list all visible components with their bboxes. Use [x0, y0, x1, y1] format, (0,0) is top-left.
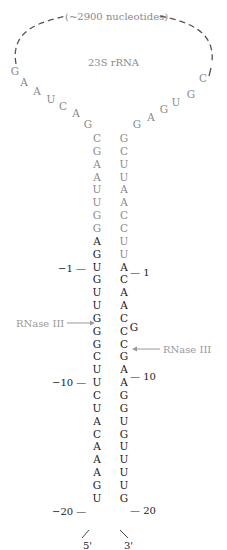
left-stem-nucleotide: C [91, 350, 103, 362]
loop-left-nucleotide: C [57, 100, 69, 112]
left-stem-nucleotide: G [91, 209, 103, 221]
loop-right-nucleotide: G [131, 118, 143, 130]
left-stem-nucleotide: G [91, 145, 103, 157]
right-stem-nucleotide: A [118, 196, 130, 208]
left-stem-nucleotide: U [91, 363, 103, 375]
left-stem-nucleotide: A [91, 415, 103, 427]
left-stem-nucleotide: U [91, 286, 103, 298]
right-stem-nucleotide: G [118, 402, 130, 414]
right-stem-nucleotide: G [118, 428, 130, 440]
left-stem-nucleotide: C [91, 428, 103, 440]
right-stem-nucleotide: U [118, 248, 130, 260]
loop-length-label: (~2900 nucleotides) [65, 11, 168, 22]
right-stem-nucleotide: G [118, 389, 130, 401]
right-stem-nucleotide: C [118, 145, 130, 157]
right-stem-nucleotide: C [118, 273, 130, 285]
left-stem-nucleotide: U [91, 261, 103, 273]
left-stem-nucleotide: A [91, 440, 103, 452]
right-stem-nucleotide: A [118, 183, 130, 195]
rrna-label: 23S rRNA [88, 57, 139, 68]
right-stem-nucleotide: A [118, 299, 130, 311]
right-stem-nucleotide: A [118, 376, 130, 388]
right-stem-nucleotide: U [118, 479, 130, 491]
loop-right-nucleotide: G [185, 88, 197, 100]
right-stem-nucleotide: C [118, 222, 130, 234]
left-stem-nucleotide: A [91, 466, 103, 478]
loop-right-nucleotide: A [145, 111, 157, 123]
left-stem-nucleotide: U [91, 402, 103, 414]
position-plus-10: — 10 [130, 371, 156, 382]
right-stem-nucleotide: U [118, 440, 130, 452]
left-stem-nucleotide: U [91, 196, 103, 208]
left-stem-nucleotide: G [91, 222, 103, 234]
position-minus-1: −1 — [58, 263, 86, 274]
left-stem-nucleotide: G [91, 325, 103, 337]
right-stem-nucleotide: A [118, 363, 130, 375]
loop-right-nucleotide: G [158, 103, 170, 115]
right-stem-nucleotide: G [118, 132, 130, 144]
position-minus-20: −20 — [52, 506, 86, 517]
right-stem-nucleotide: U [118, 466, 130, 478]
three-prime-label: 3' [124, 540, 133, 550]
bulge-nucleotide: G [128, 321, 140, 333]
left-stem-nucleotide: U [91, 376, 103, 388]
right-stem-nucleotide: C [118, 338, 130, 350]
left-stem-nucleotide: U [91, 299, 103, 311]
left-stem-nucleotide: A [91, 158, 103, 170]
position-plus-20: — 20 [130, 505, 156, 516]
left-stem-nucleotide: A [91, 171, 103, 183]
position-minus-10: −10 — [52, 377, 86, 388]
right-stem-nucleotide: G [118, 492, 130, 504]
right-stem-nucleotide: C [118, 209, 130, 221]
right-stem-nucleotide: U [118, 415, 130, 427]
left-stem-nucleotide: G [91, 312, 103, 324]
right-stem-nucleotide: A [118, 286, 130, 298]
left-stem-nucleotide: G [91, 338, 103, 350]
loop-left-nucleotide: U [45, 93, 57, 105]
loop-left-nucleotide: A [18, 76, 30, 88]
rnase-iii-label-left: RNase III [16, 318, 64, 329]
five-prime-label: 5' [83, 540, 92, 550]
left-stem-nucleotide: C [91, 132, 103, 144]
rnase-iii-label-right: RNase III [163, 344, 211, 355]
left-stem-nucleotide: A [91, 453, 103, 465]
position-plus-1: — 1 [130, 267, 150, 278]
right-stem-nucleotide: A [118, 261, 130, 273]
left-stem-nucleotide: C [91, 389, 103, 401]
left-stem-nucleotide: U [91, 183, 103, 195]
loop-left-nucleotide: A [31, 85, 43, 97]
loop-right-nucleotide: U [170, 96, 182, 108]
loop-left-nucleotide: A [70, 107, 82, 119]
left-stem-nucleotide: U [91, 492, 103, 504]
right-stem-nucleotide: U [118, 235, 130, 247]
left-stem-nucleotide: G [91, 479, 103, 491]
right-stem-nucleotide: G [118, 350, 130, 362]
right-stem-nucleotide: U [118, 453, 130, 465]
loop-dashed-arc [0, 0, 227, 550]
left-stem-nucleotide: G [91, 248, 103, 260]
left-stem-nucleotide: A [91, 235, 103, 247]
loop-left-nucleotide: G [82, 118, 94, 130]
right-stem-nucleotide: U [118, 158, 130, 170]
right-stem-nucleotide: U [118, 171, 130, 183]
loop-right-nucleotide: C [197, 72, 209, 84]
left-stem-nucleotide: G [91, 273, 103, 285]
